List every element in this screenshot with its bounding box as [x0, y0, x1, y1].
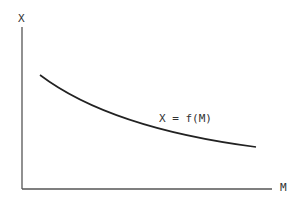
diagram-canvas — [0, 0, 302, 200]
curve-label: X = f(M) — [159, 113, 212, 124]
function-curve — [40, 75, 256, 147]
y-axis-label: X — [18, 13, 25, 24]
x-axis-label: M — [280, 182, 287, 193]
